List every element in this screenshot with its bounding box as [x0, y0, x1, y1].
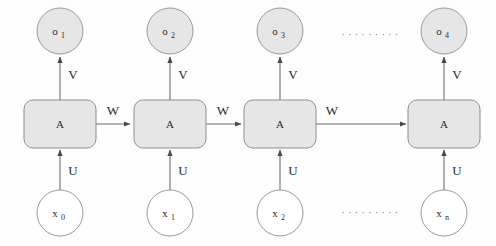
timestep-group-0: o 1 A x 0 V U W: [24, 8, 130, 236]
hidden-box-label-0: A: [56, 118, 64, 130]
output-node-label-2: o: [272, 25, 278, 37]
weight-label-u-1: U: [178, 163, 188, 178]
input-node-label-3: x: [436, 207, 442, 219]
output-node-2: [257, 8, 303, 54]
hidden-box-label-1: A: [166, 118, 174, 130]
output-node-label-1: o: [162, 25, 168, 37]
hidden-box-label-2: A: [276, 118, 284, 130]
input-node-sub-1: 1: [171, 213, 175, 222]
input-node-sub-2: 2: [281, 213, 285, 222]
input-node-3: [421, 190, 467, 236]
weight-label-u-0: U: [68, 163, 78, 178]
timestep-group-3: o 4 A x n V U: [408, 8, 480, 236]
input-node-sub-3: n: [445, 213, 449, 222]
weight-label-v-2: V: [288, 67, 298, 82]
hidden-box-label-3: A: [440, 118, 448, 130]
weight-label-v-1: V: [178, 67, 188, 82]
weight-label-w-0: W: [107, 103, 120, 118]
input-node-1: [147, 190, 193, 236]
weight-label-w-1: W: [217, 103, 230, 118]
ellipsis-bottom: · · · · · · · · ·: [342, 207, 399, 218]
weight-label-u-2: U: [288, 163, 298, 178]
output-node-label-0: o: [52, 25, 58, 37]
weight-label-v-3: V: [452, 67, 462, 82]
rnn-unrolled-diagram: o 1 A x 0 V U W o 2 A x 1: [0, 0, 496, 246]
timestep-group-1: o 2 A x 1 V U W: [134, 8, 241, 236]
input-node-2: [257, 190, 303, 236]
weight-label-w-2: W: [326, 103, 339, 118]
weight-label-u-3: U: [452, 163, 462, 178]
input-node-label-0: x: [52, 207, 58, 219]
input-node-label-1: x: [162, 207, 168, 219]
output-node-sub-1: 2: [171, 31, 175, 40]
input-node-sub-0: 0: [61, 213, 65, 222]
output-node-1: [147, 8, 193, 54]
output-node-sub-0: 1: [61, 31, 65, 40]
input-node-label-2: x: [272, 207, 278, 219]
output-node-sub-2: 3: [281, 31, 285, 40]
input-node-0: [37, 190, 83, 236]
output-node-0: [37, 8, 83, 54]
diagram-canvas: o 1 A x 0 V U W o 2 A x 1: [0, 0, 496, 246]
timestep-group-2: o 3 A x 2 V U W: [244, 8, 406, 236]
output-node-label-3: o: [436, 25, 442, 37]
ellipsis-top: · · · · · · · · ·: [342, 29, 399, 40]
output-node-sub-3: 4: [445, 31, 449, 40]
output-node-3: [421, 8, 467, 54]
weight-label-v-0: V: [68, 67, 78, 82]
